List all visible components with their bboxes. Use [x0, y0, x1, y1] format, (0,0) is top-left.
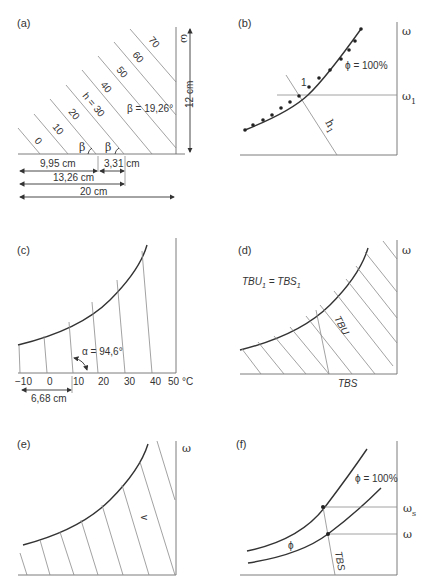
beta-symbol: β [105, 141, 111, 154]
saturation-curve-100 [247, 449, 367, 551]
omega-label: ω [182, 442, 191, 455]
svg-text:10: 10 [50, 121, 66, 137]
dimension-label: 9,95 cm [40, 158, 76, 169]
panel-c-label: (c) [17, 244, 30, 256]
svg-text:10: 10 [73, 376, 85, 387]
wet-bulb-lines [242, 241, 397, 374]
svg-text:h = 30: h = 30 [80, 90, 107, 119]
state-point [326, 532, 330, 536]
dimension-label: 13,26 cm [53, 172, 94, 183]
svg-text:60: 60 [130, 49, 146, 65]
panel-d-label: (d) [238, 244, 251, 256]
svg-text:20: 20 [66, 106, 82, 122]
psychrometric-construction-figure: (a) 0 10 20 h = 30 40 50 60 70 β [0, 0, 432, 588]
omega-label: ω [402, 244, 411, 257]
beta-value-label: β = 19,26° [127, 103, 173, 114]
panel-b-label: (b) [238, 17, 251, 29]
dry-bulb-line [323, 507, 335, 575]
omega-label: ω [178, 34, 191, 43]
phi-100-label: ϕ = 100% [345, 60, 388, 71]
panel-d: (d) TBU1 = TBS1 TBU TBS ω [238, 240, 411, 389]
height-dimension-label: 12 cm [184, 81, 195, 108]
tbu-label: TBU [332, 314, 351, 338]
tbs-label: TBS [338, 378, 358, 389]
omega-s-label: ωs [403, 502, 416, 518]
panel-b: (b) 1 ϕ = 100% ω ω1 h1 [238, 17, 416, 155]
panel-c: (c) α = 94,6° −10 0 10 20 30 40 50 °C 6,… [15, 238, 193, 404]
relative-humidity-curve [248, 488, 381, 563]
alpha-label: α = 94,6° [82, 346, 123, 357]
panel-a-label: (a) [17, 17, 30, 29]
panel-f-label: (f) [236, 438, 246, 450]
saturation-point [321, 505, 325, 509]
dimension-label: 6,68 cm [31, 393, 67, 404]
beta-arc [88, 148, 92, 154]
svg-text:20: 20 [98, 376, 110, 387]
saturation-curve [240, 248, 368, 350]
omega-label: ω [403, 528, 412, 541]
svg-text:0: 0 [47, 376, 53, 387]
point-1-label: 1 [301, 77, 307, 88]
panel-a: (a) 0 10 20 h = 30 40 50 60 70 β [17, 17, 195, 197]
specific-volume-lines [20, 441, 175, 575]
beta-arc [115, 148, 119, 154]
phi-100-label: ϕ = 100% [355, 473, 398, 484]
svg-text:70: 70 [146, 34, 162, 50]
enthalpy-labels: 0 10 20 h = 30 40 50 60 70 [32, 34, 162, 147]
enthalpy-line-h1 [286, 75, 337, 155]
omega-label: ω [402, 25, 411, 38]
h1-label: h1 [321, 117, 340, 135]
panel-e-label: (e) [17, 438, 30, 450]
svg-text:−10: −10 [15, 376, 32, 387]
temperature-ticks: −10 0 10 20 30 40 50 °C [15, 376, 193, 387]
panel-f: (f) ϕ = 100% ϕ TBS ωs ω [236, 438, 416, 575]
saturation-curve [23, 444, 148, 545]
svg-text:30: 30 [124, 376, 136, 387]
svg-text:40: 40 [150, 376, 162, 387]
dimension-label: 3,31 cm [104, 158, 140, 169]
v-label: v [139, 515, 150, 520]
saturation-curve [18, 245, 147, 345]
dimension-label: 20 cm [80, 186, 107, 197]
alpha-arc [74, 358, 87, 370]
panel-e: (e) v ω [17, 438, 191, 575]
omega1-label: ω1 [402, 90, 416, 106]
phi-label: ϕ [288, 540, 294, 551]
svg-text:0: 0 [32, 135, 44, 147]
beta-symbol: β [79, 141, 85, 154]
tbs-label: TBS [333, 550, 347, 571]
tbu1-equals-tbs1-label: TBU1 = TBS1 [242, 276, 301, 289]
svg-text:50 °C: 50 °C [168, 376, 193, 387]
